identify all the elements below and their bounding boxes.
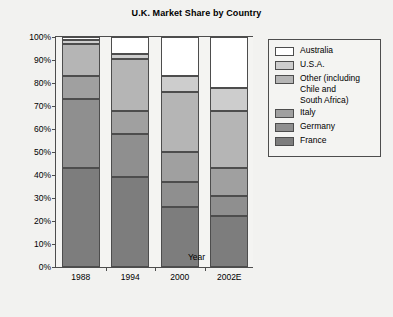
legend-swatch-icon [275, 47, 294, 56]
bar-segment[interactable] [161, 152, 199, 182]
y-tick-mark [52, 267, 56, 268]
bar-segment[interactable] [161, 37, 199, 76]
x-tick-label: 2000 [170, 272, 189, 282]
bar-segment[interactable] [161, 92, 199, 152]
bar-2000[interactable] [161, 37, 199, 267]
x-tick-label: 2002E [217, 272, 242, 282]
x-tick-mark [155, 267, 156, 271]
y-tick-mark [52, 83, 56, 84]
y-tick-label: 20% [8, 216, 56, 226]
bar-segment[interactable] [111, 134, 149, 178]
bar-segment[interactable] [111, 54, 149, 59]
y-tick-label: 40% [8, 170, 56, 180]
legend-item-label: France [300, 135, 326, 146]
y-tick-mark [52, 198, 56, 199]
bar-segment[interactable] [62, 76, 100, 99]
bar-1994[interactable] [111, 37, 149, 267]
bar-segment[interactable] [62, 37, 100, 40]
bar-segment[interactable] [210, 88, 248, 111]
legend-swatch-icon [275, 109, 294, 118]
y-tick-mark [52, 221, 56, 222]
bar-segment[interactable] [210, 37, 248, 88]
y-tick-mark [52, 175, 56, 176]
legend-item[interactable]: Germany [275, 121, 376, 134]
x-axis-title: Year [0, 252, 393, 262]
y-tick-mark [52, 129, 56, 130]
bar-segment[interactable] [62, 99, 100, 168]
legend-swatch-icon [275, 75, 294, 84]
x-tick-label: 1994 [121, 272, 140, 282]
bar-segment[interactable] [210, 111, 248, 169]
legend-item-label: Australia [300, 45, 333, 56]
y-tick-label: 30% [8, 193, 56, 203]
legend-swatch-icon [275, 61, 294, 70]
y-tick-label: 10% [8, 239, 56, 249]
bar-segment[interactable] [210, 196, 248, 217]
legend-item-label: U.S.A. [300, 59, 325, 70]
x-tick-label: 1988 [71, 272, 90, 282]
bar-1988[interactable] [62, 37, 100, 267]
legend-item-label: Italy [300, 107, 316, 118]
y-tick-label: 100% [8, 32, 56, 42]
y-tick-label: 60% [8, 124, 56, 134]
legend-item[interactable]: France [275, 135, 376, 148]
legend-item[interactable]: Australia [275, 45, 376, 58]
y-tick-label: 70% [8, 101, 56, 111]
x-tick-mark [106, 267, 107, 271]
chart-legend: AustraliaU.S.A.Other (including Chile an… [268, 39, 381, 157]
bar-segment[interactable] [111, 59, 149, 111]
chart-figure: U.K. Market Share by Country Market Shar… [0, 0, 393, 317]
bar-segment[interactable] [210, 168, 248, 196]
legend-swatch-icon [275, 123, 294, 132]
legend-item[interactable]: U.S.A. [275, 59, 376, 72]
y-tick-mark [52, 60, 56, 61]
bar-segment[interactable] [161, 182, 199, 207]
y-tick-mark [52, 152, 56, 153]
legend-item[interactable]: Other (including Chile and South Africa) [275, 73, 376, 106]
y-tick-label: 90% [8, 55, 56, 65]
y-tick-mark [52, 106, 56, 107]
x-tick-mark [205, 267, 206, 271]
plot-inner: Market Share 0%10%20%30%40%50%60%70%80%9… [56, 37, 253, 267]
bar-segment[interactable] [111, 37, 149, 54]
bar-segment[interactable] [111, 111, 149, 134]
chart-title: U.K. Market Share by Country [0, 8, 393, 18]
bar-segment[interactable] [62, 44, 100, 76]
legend-item[interactable]: Italy [275, 107, 376, 120]
y-tick-label: 0% [8, 262, 56, 272]
y-tick-mark [52, 37, 56, 38]
legend-item-label: Germany [300, 121, 335, 132]
y-tick-mark [52, 244, 56, 245]
y-tick-label: 50% [8, 147, 56, 157]
bar-segment[interactable] [62, 40, 100, 43]
legend-swatch-icon [275, 137, 294, 146]
bar-segment[interactable] [161, 76, 199, 92]
bar-2002E[interactable] [210, 37, 248, 267]
plot-area: Market Share 0%10%20%30%40%50%60%70%80%9… [55, 36, 253, 268]
y-tick-label: 80% [8, 78, 56, 88]
legend-item-label: Other (including Chile and South Africa) [300, 73, 360, 106]
